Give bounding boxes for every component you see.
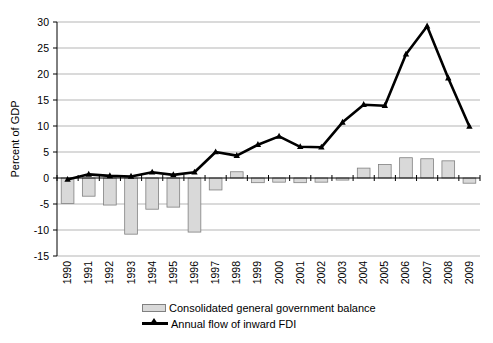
x-tick-label: 1999 <box>251 261 263 285</box>
y-tick-label: 15 <box>37 94 49 106</box>
bar-1992 <box>104 178 117 205</box>
bar-2000 <box>273 178 286 182</box>
bar-1996 <box>188 178 201 232</box>
legend: Consolidated general government balance … <box>142 301 376 330</box>
bar-2006 <box>400 158 413 178</box>
bar-1995 <box>167 178 180 207</box>
y-axis-title: Percent of GDP <box>9 100 21 177</box>
x-tick-label: 1990 <box>61 261 73 285</box>
bar-2005 <box>378 164 391 178</box>
y-tick-label: -5 <box>40 198 49 210</box>
bar-1991 <box>82 178 95 196</box>
chart: Percent of GDP -15-10-505101520253019901… <box>0 0 493 343</box>
triangle-marker-icon <box>150 318 158 324</box>
bar-2007 <box>421 159 434 178</box>
legend-label-fdi: Annual flow of inward FDI <box>171 318 296 330</box>
x-tick-label: 2003 <box>336 261 348 285</box>
fdi-line <box>68 26 470 179</box>
bar-2004 <box>357 168 370 178</box>
y-tick-label: -10 <box>34 224 49 236</box>
legend-item-government-balance: Consolidated general government balance <box>142 301 376 314</box>
legend-label-government-balance: Consolidated general government balance <box>169 302 376 314</box>
x-tick-label: 2008 <box>442 261 454 285</box>
x-tick-label: 2004 <box>357 261 369 285</box>
y-tick-label: 30 <box>37 16 49 28</box>
bar-2009 <box>463 178 476 183</box>
bar-1997 <box>209 178 222 190</box>
y-tick-label: 10 <box>37 120 49 132</box>
bar-2002 <box>315 178 328 182</box>
y-tick-label: 20 <box>37 68 49 80</box>
x-tick-label: 2009 <box>463 261 475 285</box>
x-tick-label: 2002 <box>315 261 327 285</box>
plot-area: -15-10-505101520253019901991199219931994… <box>34 16 480 285</box>
bar-1994 <box>146 178 159 209</box>
line-marker-2007 <box>424 23 430 29</box>
x-tick-label: 1995 <box>167 261 179 285</box>
x-tick-label: 1997 <box>209 261 221 285</box>
chart-canvas: Percent of GDP -15-10-505101520253019901… <box>0 0 493 343</box>
x-tick-label: 1996 <box>188 261 200 285</box>
x-tick-label: 1994 <box>146 261 158 285</box>
x-tick-label: 2007 <box>421 261 433 285</box>
line-triangle-swatch-icon <box>142 322 168 325</box>
y-tick-label: -15 <box>34 250 49 262</box>
bar-swatch-icon <box>142 304 166 312</box>
x-tick-label: 1992 <box>103 261 115 285</box>
line-marker-2000 <box>276 133 282 139</box>
bar-1999 <box>252 178 265 183</box>
bar-2008 <box>442 161 455 178</box>
legend-item-fdi: Annual flow of inward FDI <box>142 317 376 330</box>
y-tick-label: 5 <box>43 146 49 158</box>
x-tick-label: 2000 <box>273 261 285 285</box>
x-tick-label: 1993 <box>125 261 137 285</box>
bar-1993 <box>125 178 138 234</box>
y-tick-label: 0 <box>43 172 49 184</box>
x-tick-label: 2001 <box>294 261 306 285</box>
x-tick-label: 1991 <box>82 261 94 285</box>
x-tick-label: 2005 <box>378 261 390 285</box>
y-tick-label: 25 <box>37 42 49 54</box>
bar-2001 <box>294 178 307 183</box>
x-tick-label: 1998 <box>230 261 242 285</box>
x-tick-label: 2006 <box>399 261 411 285</box>
bar-1998 <box>230 172 243 178</box>
